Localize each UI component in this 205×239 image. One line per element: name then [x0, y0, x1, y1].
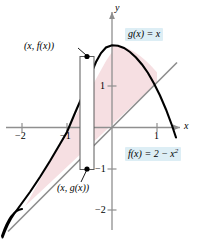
point-label-top: (x, f(x)): [24, 41, 54, 51]
leader-line-top: [78, 48, 86, 55]
x-axis-label: x: [184, 121, 188, 131]
representative-rectangle: [80, 57, 94, 170]
curve-equation-label: f(x) = 2 − x2: [125, 147, 181, 161]
curve-equation-exponent: 2: [175, 147, 179, 155]
y-axis-label: y: [115, 3, 119, 13]
x-tick-label--1: −1: [60, 131, 71, 141]
point-label-bottom: (x, g(x)): [57, 183, 89, 193]
x-tick-label--2: −2: [15, 131, 26, 141]
x-tick-label-1: 1: [154, 131, 159, 141]
point-bottom-marker: [84, 166, 89, 171]
y-axis-arrow: [109, 12, 115, 19]
curve-equation-text: f(x) = 2 − x: [128, 148, 175, 159]
line-equation-label: g(x) = x: [125, 28, 163, 41]
leader-line-bottom: [81, 171, 87, 183]
y-tick-label-1: 1: [100, 81, 105, 91]
y-tick-label--1: −1: [95, 164, 106, 174]
figure-container: −2 −1 1 1 −1 −2 x y (x, f(x)) (x, g(x)) …: [0, 0, 205, 239]
y-tick-label--2: −2: [95, 205, 106, 215]
